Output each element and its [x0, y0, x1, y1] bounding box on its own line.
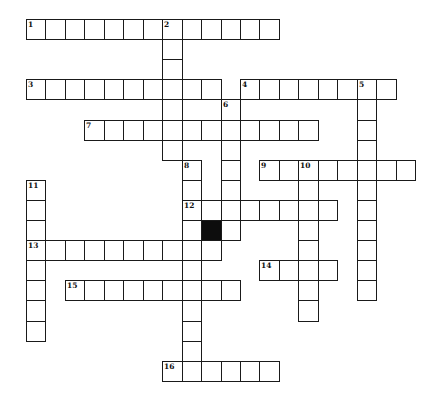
- grid-cell[interactable]: [201, 361, 222, 382]
- grid-cell[interactable]: [143, 240, 163, 261]
- grid-cell[interactable]: [357, 99, 377, 121]
- grid-cell[interactable]: [357, 120, 377, 141]
- grid-cell[interactable]: [221, 19, 241, 40]
- grid-cell[interactable]: [298, 220, 319, 241]
- grid-cell[interactable]: [123, 120, 144, 141]
- grid-cell[interactable]: [162, 140, 183, 161]
- grid-cell[interactable]: [357, 140, 377, 161]
- grid-cell[interactable]: [143, 19, 163, 40]
- grid-cell[interactable]: [182, 341, 202, 362]
- grid-cell[interactable]: [182, 260, 202, 281]
- grid-cell[interactable]: [201, 120, 222, 141]
- grid-cell[interactable]: [123, 280, 144, 301]
- grid-cell[interactable]: [26, 220, 46, 241]
- grid-cell[interactable]: [162, 79, 183, 100]
- grid-cell[interactable]: [182, 321, 202, 342]
- grid-cell[interactable]: [357, 200, 377, 221]
- grid-cell[interactable]: [298, 300, 319, 322]
- grid-cell[interactable]: 1: [26, 19, 46, 40]
- grid-cell[interactable]: [182, 220, 202, 241]
- grid-cell[interactable]: 10: [298, 160, 319, 181]
- grid-cell[interactable]: [279, 200, 299, 221]
- grid-cell[interactable]: [259, 19, 280, 40]
- grid-cell[interactable]: [182, 120, 202, 141]
- grid-cell[interactable]: 9: [259, 160, 280, 181]
- grid-cell[interactable]: [65, 19, 85, 40]
- grid-cell[interactable]: [318, 79, 338, 100]
- grid-cell[interactable]: [298, 180, 319, 201]
- grid-cell[interactable]: [84, 79, 105, 100]
- grid-cell[interactable]: [221, 280, 241, 301]
- grid-cell[interactable]: [182, 180, 202, 201]
- grid-cell[interactable]: 13: [26, 240, 46, 261]
- grid-cell[interactable]: [162, 240, 183, 261]
- grid-cell[interactable]: [240, 361, 260, 382]
- grid-cell[interactable]: [201, 19, 222, 40]
- grid-cell[interactable]: [357, 280, 377, 301]
- grid-cell[interactable]: [298, 240, 319, 261]
- grid-cell[interactable]: 16: [162, 361, 183, 382]
- grid-cell[interactable]: 5: [357, 79, 377, 100]
- grid-cell[interactable]: [45, 19, 66, 40]
- grid-cell[interactable]: [182, 361, 202, 382]
- grid-cell[interactable]: [182, 19, 202, 40]
- grid-cell[interactable]: [162, 99, 183, 121]
- grid-cell[interactable]: [221, 200, 241, 221]
- grid-cell[interactable]: [162, 280, 183, 301]
- grid-cell[interactable]: [45, 240, 66, 261]
- grid-cell[interactable]: [357, 180, 377, 201]
- grid-cell[interactable]: [162, 120, 183, 141]
- grid-cell[interactable]: [26, 200, 46, 221]
- grid-cell[interactable]: [84, 280, 105, 301]
- grid-cell[interactable]: [104, 79, 124, 100]
- grid-cell[interactable]: [26, 300, 46, 322]
- grid-cell[interactable]: [143, 120, 163, 141]
- grid-cell[interactable]: 7: [84, 120, 105, 141]
- grid-cell[interactable]: [143, 79, 163, 100]
- grid-cell[interactable]: 11: [26, 180, 46, 201]
- grid-cell[interactable]: [221, 180, 241, 201]
- grid-cell[interactable]: [337, 160, 358, 181]
- grid-cell[interactable]: [26, 280, 46, 301]
- grid-cell[interactable]: [201, 240, 222, 261]
- grid-cell[interactable]: [65, 240, 85, 261]
- grid-cell[interactable]: [221, 120, 241, 141]
- grid-cell[interactable]: [279, 260, 299, 281]
- grid-cell[interactable]: [84, 240, 105, 261]
- grid-cell[interactable]: [123, 240, 144, 261]
- grid-cell[interactable]: [318, 200, 338, 221]
- grid-cell[interactable]: [221, 160, 241, 181]
- grid-cell[interactable]: [201, 200, 222, 221]
- grid-cell[interactable]: [259, 79, 280, 100]
- grid-cell[interactable]: [357, 220, 377, 241]
- grid-cell[interactable]: [221, 361, 241, 382]
- grid-cell[interactable]: [162, 59, 183, 80]
- grid-cell[interactable]: [123, 79, 144, 100]
- grid-cell[interactable]: [357, 160, 377, 181]
- grid-cell[interactable]: 3: [26, 79, 46, 100]
- grid-cell[interactable]: [376, 160, 397, 181]
- grid-cell[interactable]: [279, 160, 299, 181]
- grid-cell[interactable]: [104, 240, 124, 261]
- grid-cell[interactable]: [240, 200, 260, 221]
- grid-cell[interactable]: [279, 120, 299, 141]
- grid-cell[interactable]: [298, 79, 319, 100]
- grid-cell[interactable]: [104, 280, 124, 301]
- grid-cell[interactable]: 15: [65, 280, 85, 301]
- grid-cell[interactable]: [45, 79, 66, 100]
- grid-cell[interactable]: [337, 79, 358, 100]
- grid-cell[interactable]: [182, 300, 202, 322]
- grid-cell[interactable]: [182, 240, 202, 261]
- grid-cell[interactable]: [201, 280, 222, 301]
- grid-cell[interactable]: [26, 321, 46, 342]
- grid-cell[interactable]: [221, 220, 241, 241]
- grid-cell[interactable]: [357, 240, 377, 261]
- grid-cell[interactable]: 4: [240, 79, 260, 100]
- grid-cell[interactable]: [318, 260, 338, 281]
- grid-cell[interactable]: [104, 120, 124, 141]
- grid-cell[interactable]: [182, 79, 202, 100]
- grid-cell[interactable]: [123, 19, 144, 40]
- grid-cell[interactable]: [298, 200, 319, 221]
- grid-cell[interactable]: [318, 160, 338, 181]
- grid-cell[interactable]: 6: [221, 99, 241, 121]
